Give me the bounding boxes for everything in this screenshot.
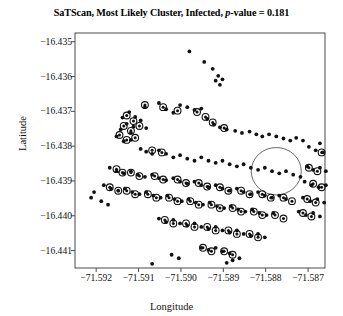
- infected-marker-dot: [320, 151, 323, 154]
- infected-marker-dot: [176, 200, 179, 203]
- infected-marker-dot: [314, 201, 317, 204]
- infected-marker-dot: [143, 104, 146, 107]
- infected-marker-dot: [134, 193, 137, 196]
- household-marker: [199, 225, 203, 229]
- infected-marker-dot: [204, 115, 207, 118]
- infected-marker-dot: [129, 129, 132, 132]
- infected-marker-dot: [310, 215, 313, 218]
- household-marker: [106, 203, 110, 207]
- household-marker: [178, 153, 182, 157]
- household-marker: [267, 132, 271, 136]
- household-marker: [199, 155, 203, 159]
- infected-marker-dot: [316, 170, 319, 173]
- infected-marker-dot: [282, 196, 285, 199]
- infected-marker-dot: [231, 253, 234, 256]
- household-marker: [254, 132, 258, 136]
- y-tick-label: −16.438: [26, 140, 72, 151]
- household-marker: [185, 157, 189, 161]
- infected-marker-dot: [227, 229, 230, 232]
- household-marker: [171, 155, 175, 159]
- household-marker: [157, 101, 161, 105]
- household-marker: [324, 169, 328, 173]
- household-marker: [277, 171, 281, 175]
- household-marker: [214, 79, 218, 83]
- household-marker: [282, 137, 286, 141]
- infected-marker-dot: [240, 189, 243, 192]
- household-marker: [178, 222, 182, 226]
- household-marker: [139, 147, 143, 151]
- household-marker: [240, 131, 244, 135]
- infected-marker-dot: [261, 214, 264, 217]
- satscan-scatter-figure: SaTScan, Most Likely Cluster, Infected, …: [0, 0, 343, 316]
- household-marker: [143, 175, 147, 179]
- y-tick-label: −16.437: [26, 105, 72, 116]
- infected-marker-dot: [248, 193, 251, 196]
- household-marker: [92, 190, 96, 194]
- infected-marker-dot: [196, 111, 199, 114]
- infected-marker-dot: [118, 134, 121, 137]
- y-axis-label: Latitude: [17, 94, 28, 174]
- household-marker: [263, 166, 267, 170]
- y-tick-label: −16.436: [26, 71, 72, 82]
- infected-marker-dot: [223, 250, 226, 253]
- infected-marker-dot: [146, 193, 149, 196]
- household-marker: [322, 201, 326, 205]
- infected-marker-dot: [197, 203, 200, 206]
- household-marker: [228, 162, 232, 166]
- household-marker: [270, 169, 274, 173]
- household-marker: [274, 135, 278, 139]
- infected-marker-dot: [185, 222, 188, 225]
- household-marker: [144, 126, 148, 130]
- household-marker: [299, 175, 303, 179]
- infected-marker-dot: [261, 193, 264, 196]
- household-marker: [288, 139, 292, 143]
- infected-marker-dot: [162, 178, 165, 181]
- infected-marker-dot: [132, 120, 135, 123]
- household-marker: [193, 159, 197, 163]
- household-marker: [178, 103, 182, 107]
- infected-marker-dot: [223, 127, 226, 130]
- y-tick-label: −16.435: [26, 36, 72, 47]
- infected-marker-dot: [151, 149, 154, 152]
- infected-marker-dot: [274, 214, 277, 217]
- y-tick-label: −16.441: [26, 245, 72, 256]
- household-marker: [216, 74, 220, 78]
- household-marker: [318, 215, 322, 219]
- infected-marker-dot: [138, 124, 141, 127]
- infected-marker-dot: [117, 189, 120, 192]
- household-marker: [303, 180, 307, 184]
- infected-marker-dot: [252, 210, 255, 213]
- x-tick-label: −71.587: [282, 272, 334, 283]
- y-tick-label: −16.440: [26, 210, 72, 221]
- household-marker: [242, 162, 246, 166]
- household-marker: [221, 229, 225, 233]
- infected-marker-dot: [163, 218, 166, 221]
- infected-marker-dot: [269, 196, 272, 199]
- household-marker: [318, 141, 322, 145]
- infected-marker-dot: [125, 189, 128, 192]
- household-marker: [157, 217, 161, 221]
- household-marker: [207, 159, 211, 163]
- household-marker: [294, 136, 298, 140]
- household-marker: [89, 196, 93, 200]
- infected-marker-dot: [122, 124, 125, 127]
- household-marker: [238, 256, 242, 260]
- household-marker: [233, 129, 237, 133]
- household-marker: [214, 161, 218, 165]
- infected-marker-dot: [172, 222, 175, 225]
- infected-marker-dot: [206, 185, 209, 188]
- infected-marker-dot: [248, 232, 251, 235]
- x-axis-tick-labels: −71.592−71.591−71.590−71.589−71.588−71.5…: [0, 272, 343, 288]
- infected-marker-dot: [231, 207, 234, 210]
- household-marker: [263, 235, 267, 239]
- y-tick-label: −16.439: [26, 175, 72, 186]
- infected-marker-dot: [290, 200, 293, 203]
- infected-marker-dot: [214, 229, 217, 232]
- infected-marker-dot: [168, 196, 171, 199]
- infected-marker-dot: [138, 175, 141, 178]
- infected-marker-dot: [218, 207, 221, 210]
- household-marker: [218, 83, 222, 87]
- household-marker: [248, 130, 252, 134]
- household-marker: [314, 148, 318, 152]
- household-marker: [211, 67, 215, 71]
